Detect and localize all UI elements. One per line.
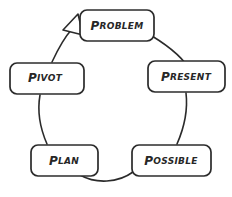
cycle-diagram: PROBLEM PRESENT POSSIBLE PLAN PIVOT [0,0,232,197]
connector-plan-to-pivot [39,95,47,144]
node-box-possible [132,145,211,176]
diagram-canvas [0,0,232,197]
node-box-pivot [10,63,84,94]
connector-pivot-to-problem [52,29,72,62]
node-box-present [148,61,225,92]
node-box-problem [80,10,154,41]
connector-present-to-possible [177,93,187,144]
node-box-plan [31,145,98,176]
node-boxes [10,10,225,176]
